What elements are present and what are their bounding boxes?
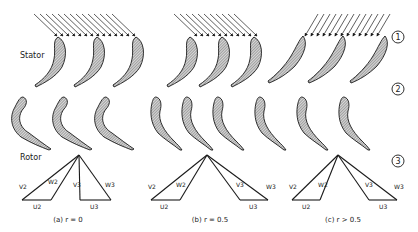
u2-label-a: U2: [33, 203, 41, 210]
v3-label-a: V3: [73, 181, 81, 188]
u2-label-b: U2: [160, 203, 168, 210]
rotor-blades-c: [255, 97, 370, 150]
v3-label-b: V3: [236, 181, 244, 188]
station-3: 3: [395, 157, 400, 166]
v2-label-c: V2: [289, 183, 297, 190]
u2-label-c: U2: [302, 203, 310, 210]
rotor-blades-b: [151, 97, 244, 150]
w2-label-c: W2: [318, 181, 328, 188]
velocity-triangles-c: [292, 155, 397, 200]
case-c: V2 W2 U2 V3 W3 U3 (c) r > 0.5: [255, 14, 404, 224]
caption-b: (b) r = 0.5: [192, 216, 228, 224]
v2-label-b: V2: [148, 183, 156, 190]
rotor-label: Rotor: [20, 153, 42, 162]
v2-label-a: V2: [19, 183, 27, 190]
inflow-arrows-a: [34, 14, 135, 36]
w3-label-b: W3: [266, 183, 276, 190]
case-a: V2 W2 U2 V3 W3 U3 (a) r = 0: [12, 14, 144, 224]
station-1: 1: [395, 33, 400, 42]
w2-label-b: W2: [176, 181, 186, 188]
u3-label-b: U3: [249, 203, 257, 210]
inflow-arrows-b: [174, 14, 257, 36]
caption-c: (c) r > 0.5: [325, 216, 361, 224]
v3-label-c: V3: [365, 181, 373, 188]
stator-blades-b: [167, 37, 261, 87]
w2-label-a: W2: [48, 178, 58, 185]
stator-blades-a: [35, 37, 143, 87]
inflow-arrows-c: [305, 14, 390, 36]
turbine-stage-reaction-diagram: Stator Rotor 1 2 3: [0, 0, 418, 232]
station-2: 2: [395, 85, 400, 94]
velocity-triangles-b: [151, 155, 268, 200]
caption-a: (a) r = 0: [53, 216, 83, 224]
rotor-blades-a: [12, 97, 134, 150]
w3-label-c: W3: [394, 183, 404, 190]
u3-label-a: U3: [90, 203, 98, 210]
w3-label-a: W3: [105, 181, 115, 188]
station-markers: [392, 31, 404, 167]
stator-label: Stator: [20, 51, 45, 60]
u3-label-c: U3: [379, 203, 387, 210]
stator-blades-c: [268, 36, 387, 83]
